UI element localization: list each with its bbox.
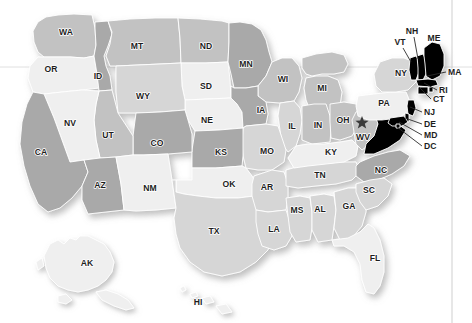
state-label-MA: MA (448, 67, 461, 77)
state-label-WY: WY (136, 91, 150, 101)
state-label-GA: GA (343, 201, 356, 211)
state-label-IL: IL (288, 121, 296, 131)
state-label-WA: WA (59, 27, 73, 37)
state-label-WV: WV (356, 132, 370, 142)
state-label-KS: KS (215, 147, 227, 157)
state-label-PA: PA (378, 98, 389, 108)
state-label-MS: MS (291, 205, 304, 215)
state-label-NY: NY (395, 68, 407, 78)
state-label-DE: DE (424, 119, 436, 129)
state-label-MI: MI (317, 83, 327, 93)
us-map-container: WAORIDMTNDMNWISDWYNVUTCONEIAMIILINOHPANY… (0, 0, 472, 323)
state-label-ME: ME (428, 33, 441, 43)
state-label-ID: ID (94, 71, 103, 81)
state-AK[interactable] (36, 236, 134, 310)
state-label-DC: DC (424, 141, 436, 151)
state-label-FL: FL (370, 253, 381, 263)
state-label-CT: CT (433, 94, 445, 104)
state-label-MT: MT (131, 41, 144, 51)
state-label-VT: VT (395, 37, 407, 47)
state-OK[interactable] (176, 166, 258, 198)
state-label-MD: MD (424, 130, 437, 140)
alaska-inset-group (36, 236, 134, 310)
state-label-AL: AL (314, 204, 325, 214)
state-OR[interactable] (28, 56, 99, 94)
state-label-IA: IA (257, 105, 266, 115)
state-NE[interactable] (185, 98, 243, 131)
state-label-SC: SC (363, 185, 375, 195)
us-map-svg: WAORIDMTNDMNWISDWYNVUTCONEIAMIILINOHPANY… (0, 0, 472, 323)
state-MT[interactable] (106, 18, 181, 66)
state-HI[interactable] (180, 286, 232, 314)
state-label-KY: KY (325, 147, 337, 157)
state-label-OK: OK (223, 179, 237, 189)
state-label-ND: ND (200, 41, 212, 51)
state-label-AR: AR (261, 182, 274, 192)
state-label-HI: HI (194, 297, 203, 307)
state-label-IN: IN (314, 120, 323, 130)
state-label-LA: LA (268, 224, 279, 234)
state-AL[interactable] (310, 194, 336, 242)
state-label-MO: MO (260, 146, 274, 156)
state-label-SD: SD (200, 81, 212, 91)
state-label-CA: CA (35, 147, 47, 157)
state-label-TX: TX (209, 226, 220, 236)
state-label-MN: MN (239, 59, 252, 69)
state-label-CO: CO (151, 138, 164, 148)
state-label-AK: AK (81, 258, 94, 268)
state-label-NE: NE (201, 115, 213, 125)
state-label-UT: UT (102, 130, 114, 140)
state-WY[interactable] (116, 63, 185, 113)
state-label-NH: NH (406, 26, 418, 36)
state-label-NC: NC (375, 165, 387, 175)
state-label-OR: OR (45, 64, 59, 74)
state-label-OH: OH (337, 115, 350, 125)
state-label-NM: NM (143, 183, 156, 193)
hawaii-inset-group (180, 286, 232, 314)
state-MA[interactable] (416, 79, 438, 87)
state-label-NJ: NJ (424, 107, 435, 117)
state-label-NV: NV (64, 118, 76, 128)
state-label-TN: TN (314, 170, 325, 180)
state-label-WI: WI (278, 74, 289, 84)
state-label-AZ: AZ (94, 180, 105, 190)
